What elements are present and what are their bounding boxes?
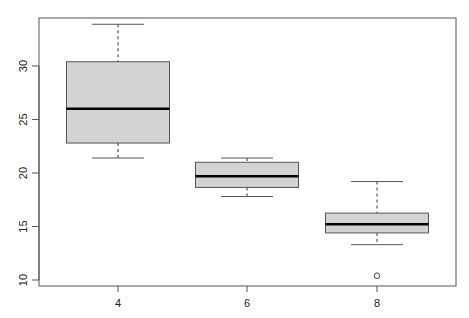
y-tick-label: 15 bbox=[17, 220, 29, 232]
boxes bbox=[67, 24, 429, 278]
y-tick-label: 10 bbox=[17, 274, 29, 286]
x-tick-label: 6 bbox=[244, 297, 250, 309]
outlier-point bbox=[374, 273, 380, 279]
y-tick-label: 30 bbox=[17, 60, 29, 72]
x-tick-label: 4 bbox=[115, 297, 121, 309]
y-tick-label: 25 bbox=[17, 113, 29, 125]
y-axis: 1015202530 bbox=[17, 60, 39, 286]
y-tick-label: 20 bbox=[17, 167, 29, 179]
box-cyl-4 bbox=[67, 24, 170, 158]
box-cyl-8 bbox=[326, 182, 429, 279]
plot-frame bbox=[39, 18, 456, 286]
x-axis: 468 bbox=[115, 286, 380, 309]
iqr-box bbox=[326, 213, 429, 233]
box-cyl-6 bbox=[196, 158, 299, 197]
iqr-box bbox=[196, 162, 299, 187]
boxplot-chart: 1015202530 468 bbox=[0, 0, 469, 318]
iqr-box bbox=[67, 62, 170, 143]
x-tick-label: 8 bbox=[374, 297, 380, 309]
